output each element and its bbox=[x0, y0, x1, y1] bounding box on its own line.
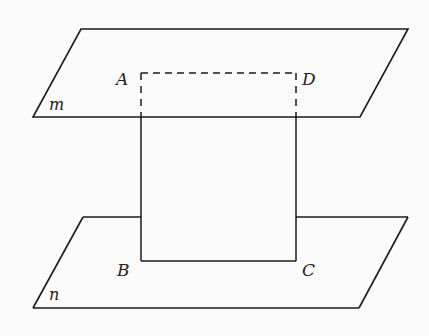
point-label-c: C bbox=[302, 260, 315, 280]
plane-n bbox=[33, 217, 408, 308]
point-label-b: B bbox=[116, 260, 130, 280]
parallel-planes-diagram: A D B C m n bbox=[0, 0, 429, 336]
rectangle-abcd bbox=[141, 73, 296, 261]
point-label-a: A bbox=[114, 69, 128, 89]
diagram-canvas: A D B C m n bbox=[0, 0, 429, 336]
plane-m bbox=[33, 29, 408, 117]
plane-label-m: m bbox=[49, 95, 64, 114]
plane-label-n: n bbox=[49, 285, 59, 304]
point-label-d: D bbox=[301, 69, 316, 89]
